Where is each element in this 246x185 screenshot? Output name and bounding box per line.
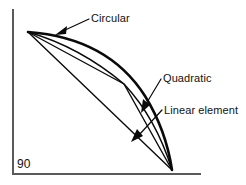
label-quadratic: Quadratic xyxy=(163,73,212,84)
circular-leader-line xyxy=(63,19,89,31)
corner-value-label: 90 xyxy=(17,158,31,170)
label-circular: Circular xyxy=(91,13,130,24)
quadratic-leader-line xyxy=(146,79,161,104)
figure-container: Circular Quadratic Linear element 90 xyxy=(0,0,246,185)
diagram-canvas xyxy=(0,0,246,185)
label-linear-element: Linear element xyxy=(164,105,238,116)
circular-arrow-head xyxy=(55,26,67,35)
